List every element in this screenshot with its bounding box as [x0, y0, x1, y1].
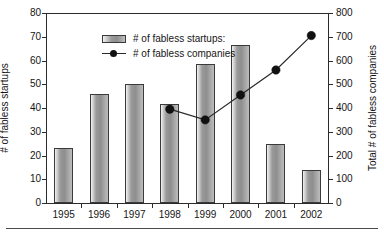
right-tick-mark [329, 13, 333, 14]
x-tick-mark [152, 204, 153, 208]
right-tick-label: 0 [336, 198, 342, 208]
x-tick-mark [81, 204, 82, 208]
left-tick-label: 70 [30, 32, 41, 42]
right-tick-mark [329, 156, 333, 157]
right-tick-label: 800 [336, 8, 353, 18]
right-tick-mark [329, 84, 333, 85]
x-tick-mark [188, 204, 189, 208]
right-tick-mark [329, 37, 333, 38]
legend-label-startups: # of fabless startups: [133, 33, 225, 44]
right-tick-label: 100 [336, 174, 353, 184]
chart-legend: # of fabless startups: # of fabless comp… [102, 32, 282, 62]
figure-separator-rule [6, 228, 378, 229]
right-tick-mark [329, 108, 333, 109]
x-tick-label: 1995 [46, 209, 81, 220]
x-tick-label: 1999 [188, 209, 223, 220]
x-tick-label: 2001 [258, 209, 293, 220]
line-dot-icon [102, 49, 126, 58]
legend-item-startups: # of fabless startups: [102, 32, 282, 45]
x-tick-label: 2002 [294, 209, 329, 220]
chart-figure: 01020304050607080 0100200300400500600700… [0, 0, 384, 235]
left-tick-label: 0 [35, 198, 41, 208]
left-tick-label: 80 [30, 8, 41, 18]
x-tick-label: 1997 [117, 209, 152, 220]
right-tick-mark [329, 203, 333, 204]
right-tick-label: 600 [336, 56, 353, 66]
left-tick-label: 50 [30, 79, 41, 89]
right-axis-title: Total # of fabless companies [367, 45, 378, 171]
plot-area: 01020304050607080 0100200300400500600700… [46, 13, 329, 203]
right-tick-label: 700 [336, 32, 353, 42]
x-tick-label: 1996 [81, 209, 116, 220]
legend-item-companies: # of fabless companies [102, 47, 282, 60]
x-tick-mark [223, 204, 224, 208]
line-data-point [236, 91, 244, 99]
right-tick-label: 400 [336, 103, 353, 113]
x-tick-mark [294, 204, 295, 208]
line-data-point [201, 116, 209, 124]
line-data-point [272, 66, 280, 74]
x-tick-mark [117, 204, 118, 208]
left-tick-label: 10 [30, 174, 41, 184]
left-tick-label: 40 [30, 103, 41, 113]
right-tick-label: 200 [336, 151, 353, 161]
left-tick-label: 30 [30, 127, 41, 137]
bar-swatch-icon [102, 35, 126, 43]
legend-label-companies: # of fabless companies [133, 48, 235, 59]
right-tick-mark [329, 61, 333, 62]
line-data-point [166, 105, 174, 113]
right-tick-mark [329, 132, 333, 133]
right-tick-mark [329, 179, 333, 180]
x-tick-label: 2000 [223, 209, 258, 220]
left-axis-title: # of fabless startups [0, 63, 10, 153]
left-tick-label: 60 [30, 56, 41, 66]
left-tick-label: 20 [30, 151, 41, 161]
x-tick-mark [258, 204, 259, 208]
x-tick-label: 1998 [152, 209, 187, 220]
right-tick-label: 500 [336, 79, 353, 89]
line-data-point [307, 31, 315, 39]
right-tick-label: 300 [336, 127, 353, 137]
